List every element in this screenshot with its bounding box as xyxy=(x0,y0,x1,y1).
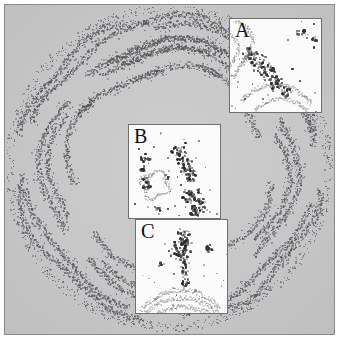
inset-c-label: C xyxy=(141,221,154,242)
figure-root: A B C xyxy=(0,0,339,339)
figure-plate-frame: A B C xyxy=(4,4,335,335)
inset-panel-c[interactable]: C xyxy=(135,219,228,314)
inset-panel-a[interactable]: A xyxy=(229,18,322,113)
inset-b-label: B xyxy=(134,126,147,147)
inset-panel-b[interactable]: B xyxy=(128,124,221,219)
inset-a-label: A xyxy=(235,20,249,41)
